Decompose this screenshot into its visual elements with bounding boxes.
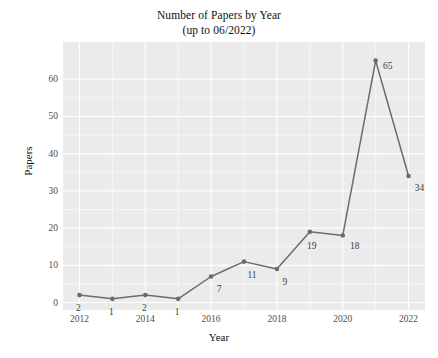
data-point-label: 34 bbox=[415, 183, 425, 193]
y-tick-label: 60 bbox=[30, 74, 58, 84]
chart-subtitle: (up to 06/2022) bbox=[0, 23, 438, 38]
data-point-label: 9 bbox=[283, 277, 288, 287]
data-point bbox=[373, 58, 378, 63]
data-point-label: 7 bbox=[217, 284, 222, 294]
y-tick-label: 20 bbox=[30, 223, 58, 233]
data-point-label: 1 bbox=[109, 307, 114, 317]
plot-panel bbox=[63, 42, 425, 310]
data-point bbox=[209, 274, 214, 279]
data-point-label: 65 bbox=[383, 61, 393, 71]
data-point bbox=[340, 233, 345, 238]
data-point-label: 2 bbox=[142, 303, 147, 313]
data-point bbox=[242, 259, 247, 264]
data-point bbox=[176, 297, 181, 302]
y-tick-label: 0 bbox=[30, 298, 58, 308]
x-tick-label: 2022 bbox=[387, 314, 431, 324]
chart-title-block: Number of Papers by Year (up to 06/2022) bbox=[0, 8, 438, 38]
y-tick-label: 10 bbox=[30, 260, 58, 270]
y-tick-label: 40 bbox=[30, 149, 58, 159]
x-tick-label: 2012 bbox=[57, 314, 101, 324]
x-tick-label: 2018 bbox=[255, 314, 299, 324]
x-axis-label: Year bbox=[0, 331, 438, 343]
data-point-label: 18 bbox=[350, 241, 360, 251]
data-point-label: 19 bbox=[307, 241, 317, 251]
data-point bbox=[406, 174, 411, 179]
data-point-label: 11 bbox=[247, 270, 256, 280]
plot-svg bbox=[63, 42, 425, 310]
x-tick-label: 2020 bbox=[321, 314, 365, 324]
data-point bbox=[110, 297, 115, 302]
x-tick-label: 2016 bbox=[189, 314, 233, 324]
data-point bbox=[143, 293, 148, 298]
chart-title: Number of Papers by Year bbox=[0, 8, 438, 23]
gridlines-minor bbox=[63, 42, 425, 310]
y-tick-label: 50 bbox=[30, 111, 58, 121]
data-point bbox=[77, 293, 82, 298]
data-point bbox=[308, 230, 313, 235]
x-tick-label: 2014 bbox=[123, 314, 167, 324]
chart-figure: Number of Papers by Year (up to 06/2022)… bbox=[0, 0, 438, 358]
data-point bbox=[275, 267, 280, 272]
data-point-label: 1 bbox=[175, 307, 180, 317]
y-tick-label: 30 bbox=[30, 186, 58, 196]
data-point-label: 2 bbox=[76, 303, 81, 313]
